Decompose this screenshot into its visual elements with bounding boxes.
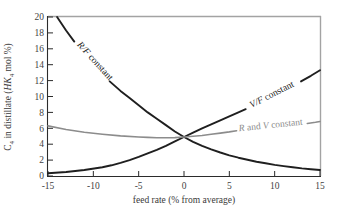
x-tick-label: 10	[270, 181, 280, 191]
y-title-mid: in distillate (	[3, 91, 14, 141]
y-title-tail: mol %)	[3, 43, 14, 74]
rv-and: and	[244, 121, 263, 133]
figure-container: 02468101214161820-15-10-5051015 R/F cons…	[0, 0, 338, 224]
x-axis-title: feed rate (% from average)	[133, 195, 235, 206]
x-tick-label: -15	[42, 181, 55, 191]
y-axis-title: C4 in distillate (HK4 mol %)	[3, 43, 16, 151]
curve-label-rf-constant: R/F constant	[75, 39, 116, 83]
curve-r-and-v-constant	[48, 126, 237, 138]
y-tick-label: 8	[39, 108, 44, 118]
x-tick-label: 15	[315, 181, 325, 191]
y-tick-label: 18	[35, 28, 45, 38]
y-tick-label: 2	[39, 155, 44, 165]
x-tick-label: -10	[87, 181, 100, 191]
curve-r-and-v-constant	[307, 122, 320, 124]
curve-label-vf-constant: V/F constant	[248, 79, 296, 110]
y-tick-label: 6	[39, 124, 44, 134]
x-tick-label: 5	[227, 181, 232, 191]
y-tick-label: 10	[35, 92, 45, 102]
curve-r-f-constant	[57, 17, 74, 42]
line-chart: 02468101214161820-15-10-5051015 R/F cons…	[0, 0, 338, 224]
y-tick-label: 4	[39, 139, 44, 149]
rf-rest: constant	[85, 50, 115, 82]
y-title-hk: HK	[3, 77, 13, 92]
plot-frame: 02468101214161820-15-10-5051015	[35, 12, 326, 190]
vf-rest: constant	[261, 79, 296, 104]
y-tick-label: 20	[35, 12, 45, 22]
x-tick-label: 0	[182, 181, 187, 191]
curve-label-r-and-v-constant: R and V constant	[237, 117, 303, 134]
y-tick-label: 16	[35, 44, 45, 54]
y-tick-label: 14	[35, 60, 45, 70]
rv-rest: constant	[268, 117, 303, 131]
curve-v-f-constant	[301, 70, 320, 81]
y-tick-label: 12	[35, 76, 45, 86]
x-tick-label: -5	[135, 181, 143, 191]
curve-v-f-constant	[48, 109, 246, 173]
